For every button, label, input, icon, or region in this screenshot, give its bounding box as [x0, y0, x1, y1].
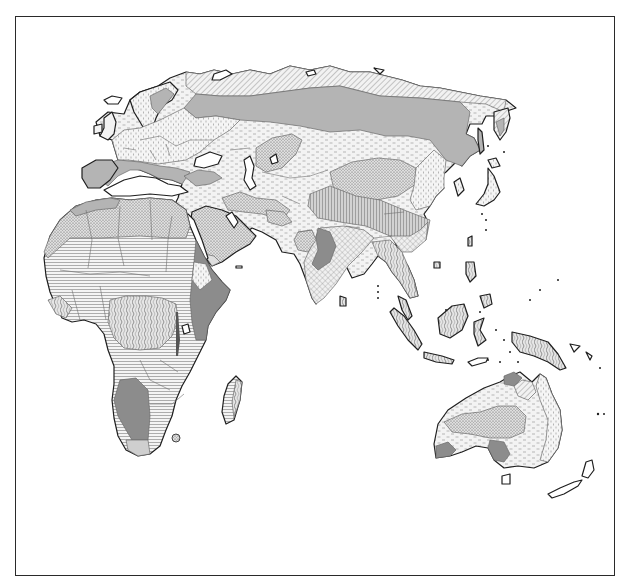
borneo — [438, 304, 468, 338]
lesotho-highland — [172, 434, 180, 442]
iceland — [104, 96, 122, 104]
new-guinea — [512, 332, 566, 370]
new-zealand-north — [582, 460, 594, 478]
lake-victoria — [182, 324, 190, 334]
korea — [454, 178, 464, 196]
philippines-luzon — [466, 262, 476, 282]
japan-honshu — [476, 168, 500, 206]
sri-lanka — [340, 296, 346, 306]
lesser-sundas — [468, 358, 488, 366]
hainan — [434, 262, 440, 268]
biome-map — [0, 0, 633, 588]
australia — [434, 372, 594, 498]
iberia — [82, 160, 118, 188]
taiwan — [468, 236, 472, 246]
ireland — [94, 124, 102, 134]
japan-hokkaido — [488, 158, 500, 168]
tasmania — [502, 474, 510, 484]
new-zealand-south — [548, 480, 582, 498]
solomon-islands — [586, 352, 592, 360]
cape-zone — [126, 440, 150, 456]
socotra — [236, 266, 242, 268]
philippines-mindanao — [480, 294, 492, 308]
new-britain — [570, 344, 580, 352]
sulawesi — [474, 318, 486, 346]
java — [424, 352, 454, 364]
sakhalin — [478, 128, 484, 154]
